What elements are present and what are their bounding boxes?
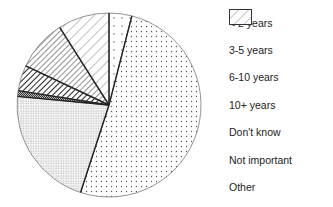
legend-item-3-5: 3-5 years [229, 36, 292, 63]
legend-item-other: Other [229, 173, 292, 200]
legend-item-10plus: 10+ years [229, 91, 292, 118]
legend-label: Other [229, 181, 255, 193]
legend-item-6-10: 6-10 years [229, 64, 292, 91]
swatch-icon [229, 9, 252, 25]
legend-label: Not important [229, 154, 292, 166]
legend-item-dont-know: Don't know [229, 119, 292, 146]
legend: < 2 years 3-5 years 6-10 years 10+ years… [229, 9, 292, 201]
legend-label: 6-10 years [229, 71, 279, 83]
legend-label: Don't know [229, 126, 281, 138]
legend-label: 3-5 years [229, 44, 273, 56]
legend-item-not-important: Not important [229, 146, 292, 173]
legend-label: 10+ years [229, 99, 275, 111]
pie-chart: < 2 years 3-5 years 6-10 years 10+ years… [0, 0, 333, 207]
